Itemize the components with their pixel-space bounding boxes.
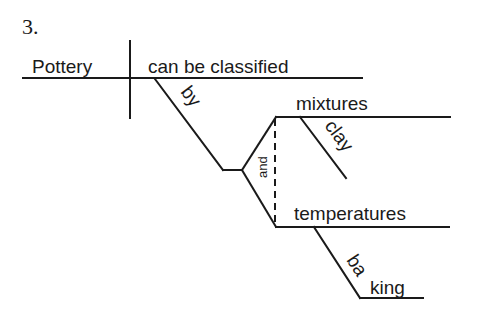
preposition-word: by <box>177 82 206 111</box>
modifier-word-baking-end: king <box>370 277 405 298</box>
verb-phrase: can be classified <box>148 56 288 77</box>
sentence-diagram: 3. Pottery can be classified by and mixt… <box>0 0 478 330</box>
subject-word: Pottery <box>32 56 93 77</box>
problem-number: 3. <box>22 14 39 39</box>
modifier-word-baking-start: ba <box>343 251 372 281</box>
conjunction-word: and <box>255 156 270 178</box>
object-word-temperatures: temperatures <box>294 203 406 224</box>
modifier-word-clay: clay <box>321 116 358 156</box>
object-word-mixtures: mixtures <box>296 93 368 114</box>
